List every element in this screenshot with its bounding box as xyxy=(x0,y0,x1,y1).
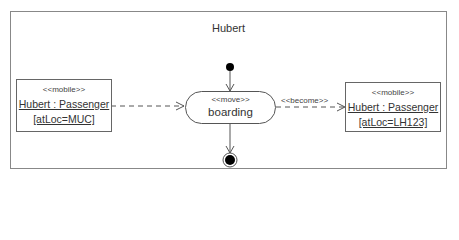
final-node-icon xyxy=(223,153,237,167)
become-edge-label: <<become>> xyxy=(281,96,328,105)
source-object-name: Hubert : Passenger xyxy=(17,97,111,112)
initial-node-icon xyxy=(226,63,234,71)
action-label: boarding xyxy=(186,105,275,119)
action-node-boarding: <<move>> boarding xyxy=(185,91,276,124)
edge-initial-to-action xyxy=(226,71,234,91)
target-object-name: Hubert : Passenger xyxy=(346,100,440,115)
target-object-stereotype: <<mobile>> xyxy=(346,88,440,98)
action-stereotype: <<move>> xyxy=(186,95,275,105)
source-object-node: <<mobile>> Hubert : Passenger [atLoc=MUC… xyxy=(16,79,112,132)
target-object-state: [atLoc=LH123] xyxy=(346,115,440,129)
source-object-stereotype: <<mobile>> xyxy=(17,85,111,95)
edge-action-to-final xyxy=(226,124,234,153)
target-object-node: <<mobile>> Hubert : Passenger [atLoc=LH1… xyxy=(345,82,441,132)
source-object-state: [atLoc=MUC] xyxy=(17,112,111,126)
edge-object-to-action xyxy=(111,102,184,110)
